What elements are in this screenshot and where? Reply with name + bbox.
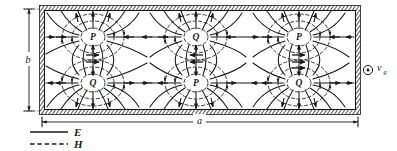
legend-label-h: H [73, 138, 83, 150]
pole-label: Q [292, 76, 307, 91]
pole-label-q-bottom-right: Q [296, 78, 303, 88]
cavity-field-diagram: P Q Q P P Q b [0, 0, 397, 151]
pole-label: P [292, 30, 307, 45]
pole-label: P [86, 30, 101, 45]
pole-label-p-top-left: P [90, 32, 96, 42]
pole-label-q-bottom-left: Q [90, 78, 97, 88]
dimension-height-label: b [26, 54, 31, 65]
pole-label: Q [189, 30, 204, 45]
legend-label-e: E [73, 126, 81, 138]
pole-label: P [189, 76, 204, 91]
pole-label-p-bottom-middle: P [193, 78, 199, 88]
pole-label-q-top-middle: Q [193, 32, 200, 42]
pole-label: Q [86, 76, 101, 91]
group-velocity-label: v [377, 62, 382, 73]
pole-label-p-top-right: P [296, 32, 302, 42]
dimension-width-label: a [197, 115, 202, 126]
